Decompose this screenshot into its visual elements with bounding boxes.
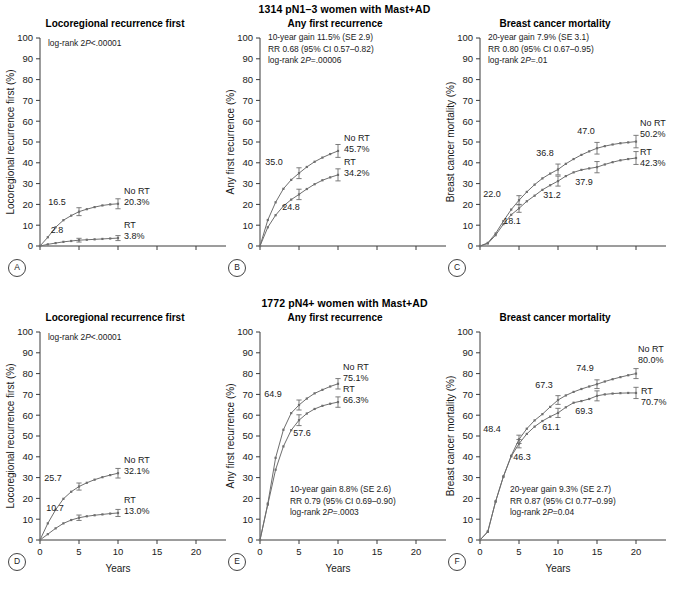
data-point xyxy=(549,173,551,175)
data-point xyxy=(588,398,590,400)
x-tick-label: 20 xyxy=(631,546,642,557)
y-tick-label: 30 xyxy=(22,178,33,189)
y-tick-label: 60 xyxy=(22,410,33,421)
plot-b: 0102030405060708090100Any first recurren… xyxy=(220,0,450,294)
data-point xyxy=(86,239,88,241)
y-tick-label: 40 xyxy=(22,451,33,462)
stat-line: 10-year gain 11.5% (SE 2.9) xyxy=(268,32,373,42)
data-point xyxy=(541,413,543,415)
stat-line: log-rank 2P=.00006 xyxy=(268,55,342,65)
stats-annotation: 20-year gain 9.3% (SE 2.7)RR 0.87 (95% C… xyxy=(510,484,616,517)
series-name-label: No RT xyxy=(124,455,150,465)
data-point xyxy=(573,391,575,393)
error-bar xyxy=(555,176,560,186)
y-tick-label: 80 xyxy=(242,368,253,379)
data-point-label: 36.8 xyxy=(536,148,554,158)
y-tick-label: 20 xyxy=(242,493,253,504)
series-name-label: RT xyxy=(640,147,652,157)
y-tick-label: 90 xyxy=(22,53,33,64)
data-point-label: 64.9 xyxy=(264,389,282,399)
series-value-label: 42.3% xyxy=(640,158,666,168)
data-point xyxy=(267,504,269,506)
y-tick-label: 60 xyxy=(462,410,473,421)
series-rt: 18.131.237.9RT42.3% xyxy=(479,147,666,247)
data-point xyxy=(259,245,261,247)
data-point xyxy=(565,163,567,165)
y-tick-label: 0 xyxy=(248,534,253,545)
data-point xyxy=(290,429,292,431)
data-point-label: 31.2 xyxy=(543,190,561,200)
stat-line: log-rank 2P<.00001 xyxy=(48,332,122,342)
plot-a: 0102030405060708090100Locoregional recur… xyxy=(0,0,230,294)
stat-line: RR 0.68 (95% CI 0.57–0.82) xyxy=(268,44,374,54)
data-point xyxy=(306,412,308,414)
series-value-label: 34.2% xyxy=(344,168,370,178)
y-tick-label: 70 xyxy=(462,389,473,400)
data-point xyxy=(109,474,111,476)
data-point xyxy=(109,203,111,205)
series-name-label: RT xyxy=(124,495,136,505)
stat-line: 10-year gain 8.8% (SE 2.6) xyxy=(290,484,391,494)
data-point-label: 47.0 xyxy=(577,126,595,136)
x-tick-label: 10 xyxy=(553,546,564,557)
data-point xyxy=(526,200,528,202)
data-point-label: 69.3 xyxy=(575,406,593,416)
series-value-label: 45.7% xyxy=(344,144,370,154)
series-value-label: 32.1% xyxy=(124,466,150,476)
data-point xyxy=(267,219,269,221)
data-point xyxy=(290,179,292,181)
stat-line: 20-year gain 9.3% (SE 2.7) xyxy=(510,484,611,494)
data-point-label: 24.8 xyxy=(282,202,300,212)
data-point xyxy=(70,519,72,521)
data-point xyxy=(47,236,49,238)
data-point xyxy=(94,514,96,516)
data-point xyxy=(479,245,481,247)
data-point xyxy=(55,527,57,529)
data-point xyxy=(604,145,606,147)
data-point xyxy=(39,539,41,541)
stat-line: log-rank 2P=.0003 xyxy=(290,507,359,517)
data-point xyxy=(259,539,261,541)
data-point xyxy=(612,378,614,380)
data-point xyxy=(86,515,88,517)
data-point xyxy=(495,500,497,502)
y-tick-label: 10 xyxy=(462,514,473,525)
data-point xyxy=(109,512,111,514)
series-value-label: 80.0% xyxy=(638,355,664,365)
y-tick-label: 50 xyxy=(22,136,33,147)
y-tick-label: 70 xyxy=(242,95,253,106)
y-axis-title: Locoregional recurrence first (%) xyxy=(5,363,16,508)
data-point xyxy=(580,388,582,390)
series-no-rt: 35.0No RT45.7% xyxy=(259,133,370,247)
y-tick-label: 60 xyxy=(242,116,253,127)
data-point xyxy=(534,419,536,421)
error-bar xyxy=(516,196,521,205)
series-name-label: No RT xyxy=(343,362,369,372)
error-bar xyxy=(335,144,340,157)
data-point xyxy=(573,402,575,404)
data-point-label: 74.9 xyxy=(576,363,594,373)
data-point-label: 46.3 xyxy=(513,452,531,462)
axes: 010203040506070809010005101520 xyxy=(237,326,446,557)
data-point xyxy=(306,166,308,168)
data-point xyxy=(565,394,567,396)
y-tick-label: 90 xyxy=(242,347,253,358)
stat-line: log-rank 2P=0.04 xyxy=(510,507,574,517)
error-bar xyxy=(335,169,340,181)
stats-annotation: 20-year gain 7.9% (SE 3.1)RR 0.80 (95% C… xyxy=(488,32,594,65)
data-point xyxy=(109,237,111,239)
data-point xyxy=(314,392,316,394)
data-point xyxy=(290,412,292,414)
figure-root: 1314 pN1–3 women with Mast+ADLocoregiona… xyxy=(0,0,689,589)
data-point-label: 37.9 xyxy=(575,177,593,187)
y-tick-label: 90 xyxy=(22,347,33,358)
y-tick-label: 60 xyxy=(242,410,253,421)
y-tick-label: 60 xyxy=(462,116,473,127)
y-tick-label: 100 xyxy=(457,326,473,337)
y-tick-label: 10 xyxy=(242,220,253,231)
y-tick-label: 50 xyxy=(242,136,253,147)
error-bar xyxy=(296,168,301,179)
data-point xyxy=(321,389,323,391)
data-point xyxy=(573,171,575,173)
plot-d: 010203040506070809010005101520Locoregion… xyxy=(0,294,230,588)
